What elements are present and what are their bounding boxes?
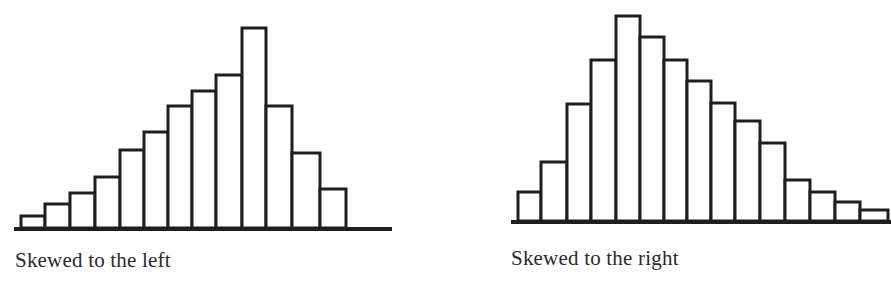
histogram-bar (810, 192, 835, 221)
histogram-bar (616, 16, 640, 221)
caption-skewed-left: Skewed to the left (15, 248, 171, 273)
histogram-bar (687, 81, 711, 221)
figure: Skewed to the left Skewed to the right (0, 0, 891, 295)
histogram-bar (518, 192, 541, 221)
histogram-bar (664, 60, 687, 221)
histogram-bar (711, 103, 735, 221)
histogram-bar (541, 162, 567, 221)
histogram-bar (760, 143, 785, 221)
histogram-bar (835, 202, 860, 221)
histogram-bar (640, 37, 664, 221)
histogram-bar (567, 104, 591, 221)
histogram-bar (785, 180, 810, 221)
histogram-bar (860, 210, 888, 221)
caption-skewed-right: Skewed to the right (511, 246, 679, 271)
histogram-bar (735, 121, 760, 221)
histogram-bar (591, 60, 616, 221)
